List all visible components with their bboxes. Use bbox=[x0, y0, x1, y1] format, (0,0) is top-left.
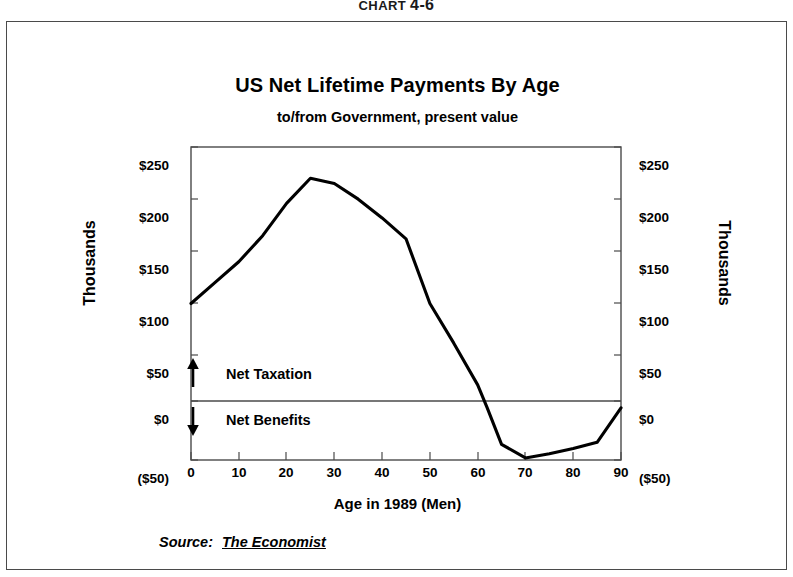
x-tick-label-20: 20 bbox=[266, 465, 306, 480]
annotation-net-taxation: Net Taxation bbox=[226, 366, 312, 382]
x-tick-label-50: 50 bbox=[410, 465, 450, 480]
x-tick-label-10: 10 bbox=[219, 465, 259, 480]
x-tick-label-40: 40 bbox=[362, 465, 402, 480]
x-tick-label-0: 0 bbox=[171, 465, 211, 480]
plot-svg bbox=[7, 22, 788, 571]
source-line: Source:The Economist bbox=[159, 534, 326, 550]
y-tick-label-right-250: $250 bbox=[639, 158, 719, 173]
arrow-up-icon bbox=[184, 358, 202, 388]
y-tick-label-left-0: $0 bbox=[91, 412, 169, 427]
y-tick-label-left-200: $200 bbox=[91, 210, 169, 225]
y-tick-label-left-100: $100 bbox=[91, 314, 169, 329]
x-axis-title: Age in 1989 (Men) bbox=[7, 495, 788, 512]
y-axis-title-left: Thousands bbox=[81, 208, 99, 318]
y-tick-label-right-100: $100 bbox=[639, 314, 719, 329]
y-axis-title-right: Thousands bbox=[715, 208, 733, 318]
x-tick-label-80: 80 bbox=[553, 465, 593, 480]
y-tick-label-right-50: $50 bbox=[639, 366, 719, 381]
chart-frame: US Net Lifetime Payments By Age to/from … bbox=[6, 21, 787, 570]
x-tick-label-90: 90 bbox=[601, 465, 641, 480]
x-tick-label-70: 70 bbox=[505, 465, 545, 480]
y-tick-label-right-200: $200 bbox=[639, 210, 719, 225]
plot-area: $250 $200 $150 $100 $50 $0 ($50) $250 $2… bbox=[7, 22, 788, 571]
annotation-net-benefits: Net Benefits bbox=[226, 412, 311, 428]
y-tick-label-left-250: $250 bbox=[91, 158, 169, 173]
y-tick-label-left-150: $150 bbox=[91, 262, 169, 277]
x-tick-label-60: 60 bbox=[458, 465, 498, 480]
y-tick-label-left-neg50: ($50) bbox=[83, 471, 169, 486]
source-value: The Economist bbox=[222, 534, 326, 550]
source-label: Source: bbox=[159, 534, 213, 550]
chart-page: CHART4-6 US Net Lifetime Payments By Age… bbox=[0, 0, 793, 577]
x-tick-label-30: 30 bbox=[314, 465, 354, 480]
y-tick-label-left-50: $50 bbox=[91, 366, 169, 381]
y-tick-label-right-150: $150 bbox=[639, 262, 719, 277]
y-tick-label-right-neg50: ($50) bbox=[639, 471, 725, 486]
figure-caption: CHART4-6 bbox=[0, 0, 793, 14]
figure-caption-prefix: CHART bbox=[359, 0, 407, 13]
y-tick-label-right-0: $0 bbox=[639, 412, 719, 427]
arrow-down-icon bbox=[184, 406, 202, 436]
figure-caption-number: 4-6 bbox=[410, 0, 434, 13]
